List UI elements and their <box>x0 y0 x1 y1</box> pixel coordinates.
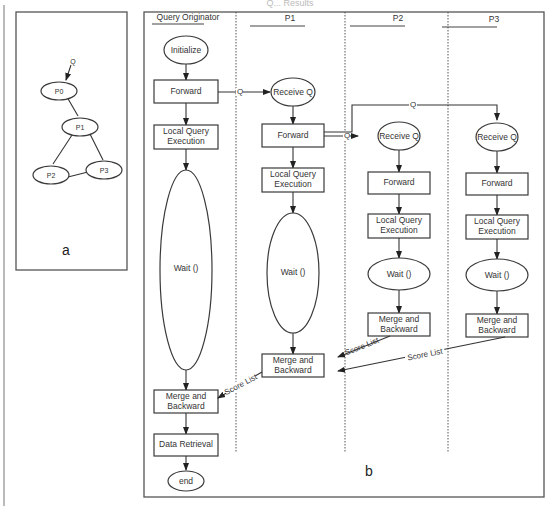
p1-wait-label: Wait () <box>281 267 306 277</box>
p3-local-query-line2: Execution <box>478 226 516 236</box>
originator-initialize-label: Initialize <box>171 45 202 55</box>
p1-local-query-line2: Execution <box>274 179 312 189</box>
query-label: Q <box>70 58 76 66</box>
p2-merge-line2: Backward <box>380 324 418 334</box>
p2-wait-label: Wait () <box>387 269 412 279</box>
originator-local-query-line1: Local Query <box>163 126 210 136</box>
lane-header-p1: P1 <box>285 13 296 23</box>
header-fragment: Q... Results <box>266 0 314 8</box>
panel-b: Query Originator P1 P2 P3 Initialize For… <box>144 12 544 497</box>
p3-receive-label: Receive Q <box>477 132 517 142</box>
score-list-label: Score List <box>223 372 259 397</box>
p1-merge-line2: Backward <box>274 365 312 375</box>
query-edge-label: Q <box>410 100 416 109</box>
panel-a-frame <box>16 12 127 270</box>
diagram-canvas: Q... Results Q P0 P1 P2 P3 a Query Origi… <box>0 0 553 506</box>
lane-header-p3: P3 <box>489 14 500 24</box>
panel-b-label: b <box>365 463 373 479</box>
node-p2-label: P2 <box>47 172 56 179</box>
panel-a-label: a <box>62 242 70 258</box>
originator-merge-line1: Merge and <box>166 391 207 401</box>
originator-local-query-line2: Execution <box>167 136 205 146</box>
p3-merge-line2: Backward <box>478 325 516 335</box>
p1-receive-label: Receive Q <box>273 87 313 97</box>
node-p3-label: P3 <box>100 167 109 174</box>
p2-local-query-line2: Execution <box>380 225 418 235</box>
p3-wait-label: Wait () <box>485 270 510 280</box>
lane-header-originator: Query Originator <box>157 12 220 22</box>
edge-p2-p3 <box>68 172 88 177</box>
p2-receive-label: Receive Q <box>379 131 419 141</box>
edge-p1-p2 <box>53 132 74 164</box>
p1-forward-label: Forward <box>277 130 308 140</box>
lane-header-p2: P2 <box>393 13 404 23</box>
originator-wait-label: Wait () <box>174 263 199 273</box>
panel-a: Q P0 P1 P2 P3 a <box>16 12 127 270</box>
p1-local-query-line1: Local Query <box>270 169 317 179</box>
originator-merge-line2: Backward <box>167 401 205 411</box>
score-list-label: Score List <box>344 336 381 358</box>
originator-data-retrieval-label: Data Retrieval <box>159 439 213 449</box>
p3-local-query-line1: Local Query <box>474 216 521 226</box>
query-edge-label: Q <box>237 87 243 96</box>
edge-p1-p3 <box>89 132 103 160</box>
edge-p0-p1 <box>67 97 78 116</box>
node-p1-label: P1 <box>76 124 85 131</box>
p2-forward-label: Forward <box>383 177 414 187</box>
query-arrow <box>66 65 71 80</box>
node-p0-label: P0 <box>55 88 64 95</box>
p3-forward-label: Forward <box>481 178 512 188</box>
p2-merge-line1: Merge and <box>379 314 420 324</box>
originator-end-label: end <box>179 476 193 486</box>
score-list-label: Score List <box>407 347 444 363</box>
originator-forward-label: Forward <box>170 86 201 96</box>
p2-local-query-line1: Local Query <box>376 215 423 225</box>
p3-merge-line1: Merge and <box>477 315 518 325</box>
p1-merge-line1: Merge and <box>273 355 314 365</box>
